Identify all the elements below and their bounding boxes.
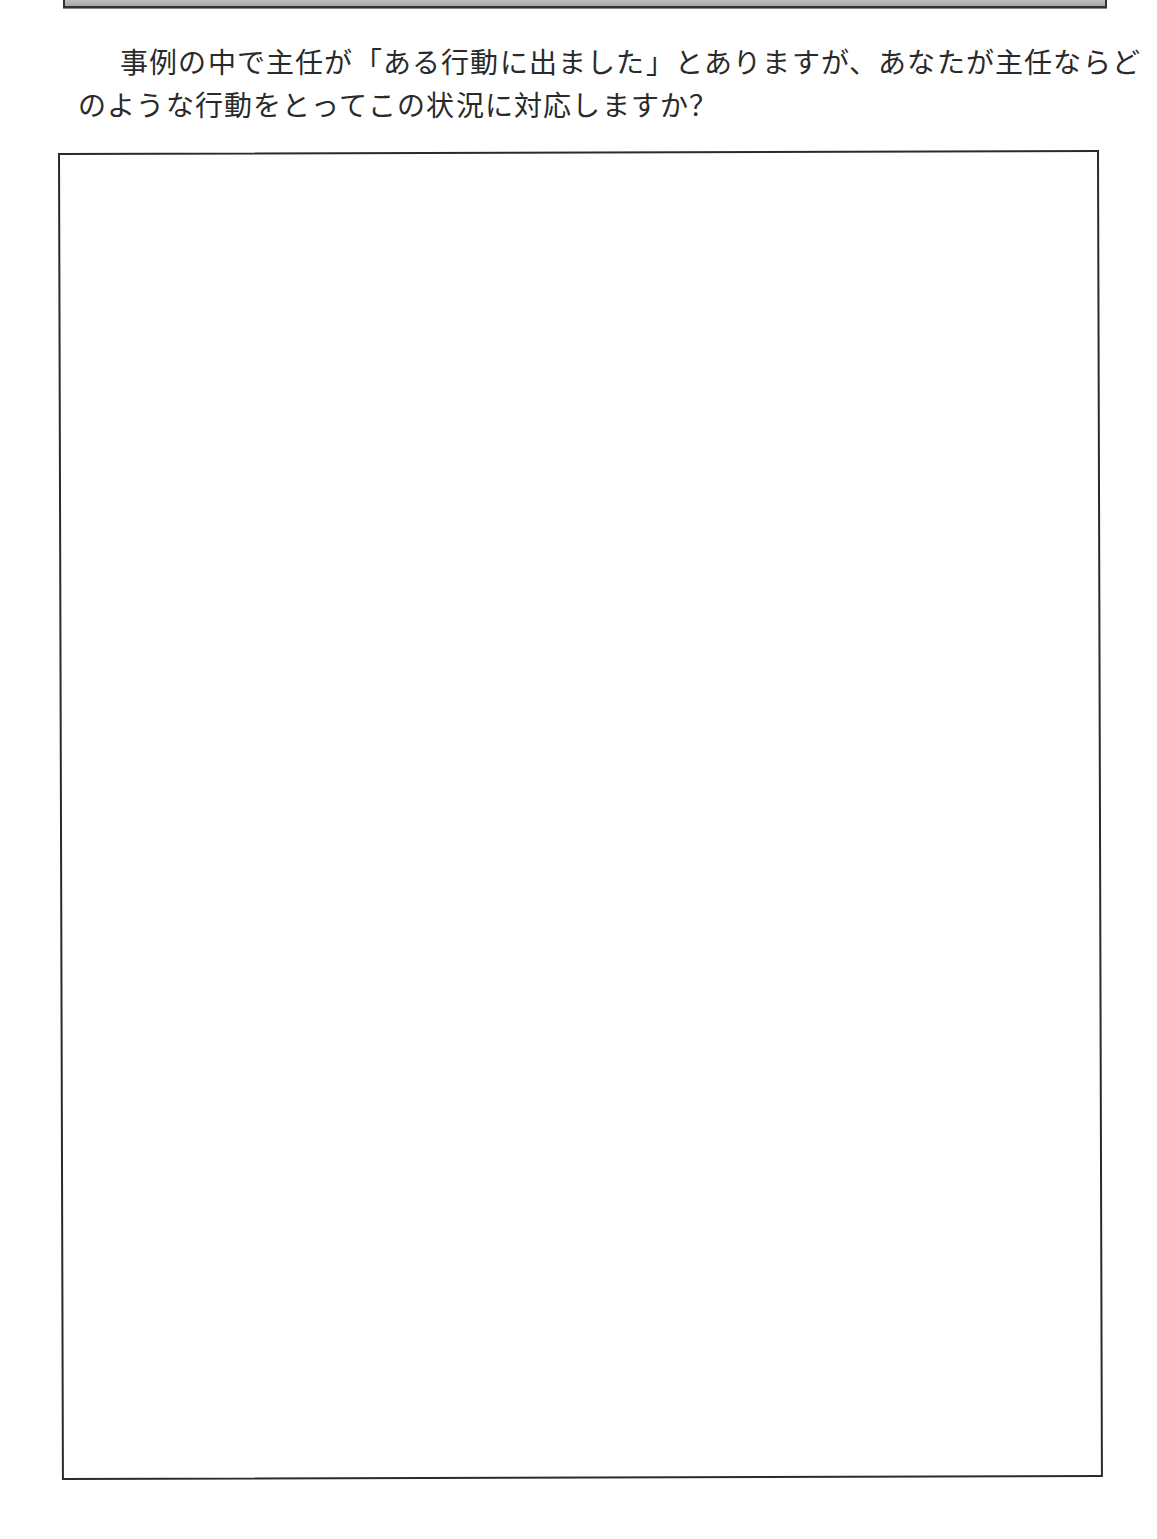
question-prompt: 事例の中で主任が「ある行動に出ました」とありますが、あなたが主任ならど のような… [78, 42, 1108, 128]
answer-input[interactable] [60, 152, 1101, 1478]
answer-box[interactable] [58, 150, 1103, 1480]
header-panel [63, 0, 1107, 8]
question-line-1: 事例の中で主任が「ある行動に出ました」とありますが、あなたが主任ならど [78, 42, 1108, 85]
question-line-2: のような行動をとってこの状況に対応しますか？ [78, 85, 1108, 128]
